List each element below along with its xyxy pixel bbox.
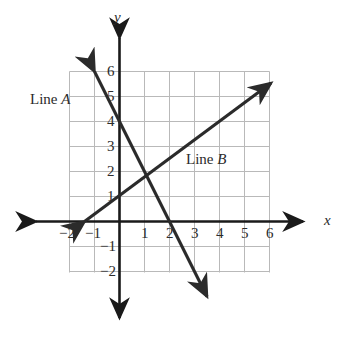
graph-figure: x y −2 −1 1 2 3 4 5 6 6 5 4 3 2 1 −1 −2 …	[0, 0, 345, 340]
y-tick-label-neg2: −2	[100, 264, 116, 279]
x-tick-label-2: 2	[166, 226, 174, 241]
x-tick-label-6: 6	[266, 226, 274, 241]
y-axis-label: y	[114, 10, 121, 25]
line-b-annotation: Line B	[186, 152, 226, 167]
y-tick-label-4: 4	[107, 114, 115, 129]
y-tick-label-3: 3	[107, 139, 115, 154]
y-tick-label-2: 2	[107, 164, 115, 179]
line-b-name: B	[217, 151, 226, 167]
y-tick-label-6: 6	[107, 64, 115, 79]
x-tick-label-neg2: −2	[59, 226, 75, 241]
x-tick-label-4: 4	[216, 226, 224, 241]
x-tick-label-5: 5	[241, 226, 249, 241]
y-tick-label-neg1: −1	[100, 239, 116, 254]
coordinate-plane-svg	[0, 0, 345, 340]
line-a-name: A	[61, 91, 70, 107]
y-tick-label-5: 5	[107, 89, 115, 104]
x-tick-label-3: 3	[191, 226, 199, 241]
x-tick-label-1: 1	[141, 226, 149, 241]
line-b-prefix: Line	[186, 151, 217, 167]
x-axis-label: x	[324, 213, 331, 228]
line-a-prefix: Line	[30, 91, 61, 107]
line-a-annotation: Line A	[30, 92, 70, 107]
y-tick-label-1: 1	[107, 189, 115, 204]
x-tick-label-neg1: −1	[85, 226, 101, 241]
